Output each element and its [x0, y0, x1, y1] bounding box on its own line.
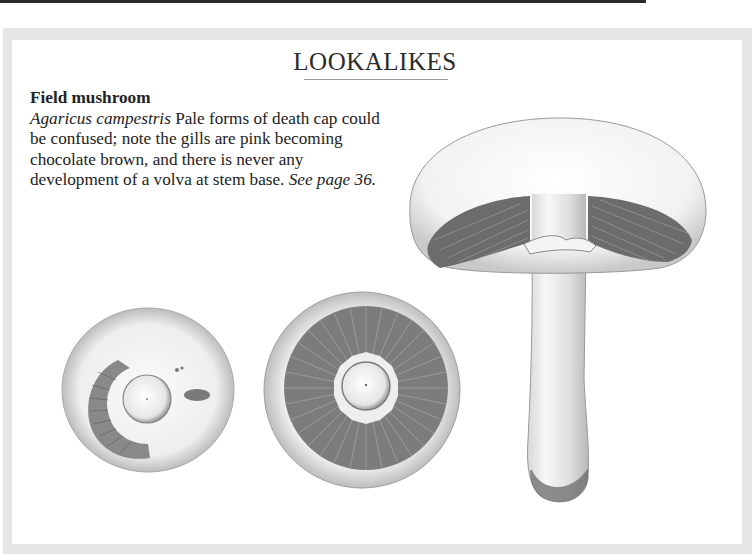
- young-cap-underside-drawing: [62, 308, 234, 472]
- side-view-drawing: [410, 118, 706, 502]
- mature-cap-underside-drawing: [264, 292, 460, 488]
- mushroom-illustrations: [0, 0, 755, 554]
